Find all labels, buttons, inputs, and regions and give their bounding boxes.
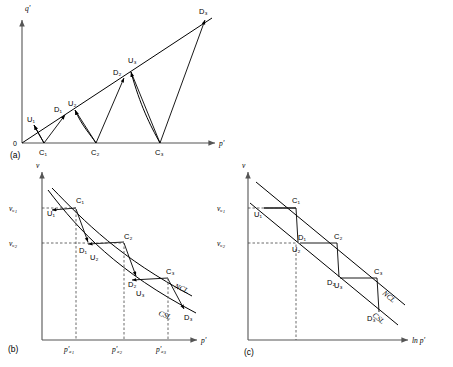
technical-diagram: q' p' 0 (a) U₁ C₁ D₁ U₂ C₂ D₂ U₃ C₃ D₃: [0, 0, 453, 367]
panel-b-dash-1: [42, 208, 76, 340]
figure-container: q' p' 0 (a) U₁ C₁ D₁ U₂ C₂ D₂ U₃ C₃ D₃: [0, 0, 453, 367]
panel-a-label-u1: U₁: [27, 115, 35, 124]
panel-b-label-d1: D₁: [79, 246, 87, 255]
panel-a-csl-line: [22, 18, 212, 143]
panel-a-label-u2: U₂: [68, 99, 76, 108]
panel-c-label-d3: D₃: [367, 314, 375, 323]
panel-b-label-c1: C₁: [76, 196, 84, 205]
panel-b-x-axis-label: p': [200, 336, 207, 345]
panel-b-csl-label: CSL: [157, 309, 172, 322]
panel-b-ytick-1: vᵤ₁: [9, 204, 18, 213]
panel-b-ncl-label: NCL: [172, 281, 189, 295]
panel-b-ytick-2: vᵤ₂: [9, 239, 18, 248]
panel-a-label-d3: D₃: [199, 7, 207, 16]
panel-b-xtick-1: p'ₐ₁: [63, 345, 75, 354]
panel-a-path-u3-c3: [131, 72, 160, 143]
panel-b-xtick-2: p'ₐ₂: [111, 345, 123, 354]
panel-a-path-c3-d3: [160, 20, 205, 143]
panel-a-label-d2: D₂: [113, 68, 121, 77]
panel-c-label-c1: C₁: [292, 196, 300, 205]
panel-c-dash-2: [248, 243, 296, 340]
panel-b-id: (b): [8, 344, 19, 354]
panel-a-path-u2-c2: [75, 110, 96, 143]
panel-a-path-c1-d1: [44, 115, 65, 143]
panel-b-xtick-3: p'ₐ₃: [155, 345, 167, 354]
panel-a-path-c2-d2: [96, 78, 124, 143]
panel-b-label-d2: D₂: [128, 280, 136, 289]
panel-a-label-c1: C₁: [39, 148, 47, 157]
panel-a: q' p' 0 (a) U₁ C₁ D₁ U₂ C₂ D₂ U₃ C₃ D₃: [10, 4, 225, 160]
panel-b-label-u1: U₁: [47, 209, 55, 218]
panel-c-label-u3: U₃: [334, 281, 342, 290]
panel-b-label-u3: U₃: [136, 289, 144, 298]
panel-a-label-c3: C₃: [155, 148, 163, 157]
panel-c-label-u2: U₂: [292, 245, 300, 254]
panel-a-label-c2: C₂: [91, 148, 99, 157]
panel-b-label-c2: C₂: [124, 232, 132, 241]
panel-c-ncl-label: NCL: [380, 288, 397, 305]
panel-c-ytick-1: vᵤ₁: [217, 204, 226, 213]
panel-a-x-axis-label: p': [218, 139, 225, 148]
panel-a-origin-label: 0: [13, 140, 17, 147]
panel-c-ytick-2: vᵤ₂: [217, 239, 226, 248]
panel-a-y-axis-label: q': [25, 4, 31, 13]
panel-c: v ln p' (c) vᵤ₁ vᵤ₂ NCL CSL U₁ C₁ D₁ U₂ …: [217, 161, 425, 357]
panel-b-seg-u2-d2: [124, 243, 136, 276]
panel-b-label-c3: C₃: [166, 267, 174, 276]
panel-a-id: (a): [10, 150, 21, 160]
panel-c-label-c3: C₃: [374, 267, 382, 276]
panel-b-y-axis-label: v: [36, 161, 40, 170]
panel-a-label-d1: D₁: [54, 105, 62, 114]
panel-c-label-c2: C₂: [334, 232, 342, 241]
panel-b-label-d3: D₃: [184, 313, 192, 322]
panel-c-label-d1: D₁: [298, 233, 306, 242]
panel-c-x-axis-label: ln p': [412, 336, 425, 345]
panel-b: v p' (b) vᵤ₁ vᵤ₂ p'ₐ₁ p'ₐ₂ p'ₐ₃ NCL CSL …: [8, 161, 207, 354]
panel-c-label-u1: U₁: [254, 210, 262, 219]
panel-c-csl-line: [250, 203, 398, 325]
panel-c-seg-u2-d2: [337, 243, 339, 277]
panel-c-y-axis-label: v: [242, 161, 246, 170]
panel-b-label-u2: U₂: [90, 253, 98, 262]
panel-a-label-u3: U₃: [128, 56, 136, 65]
panel-c-id: (c): [244, 347, 254, 357]
